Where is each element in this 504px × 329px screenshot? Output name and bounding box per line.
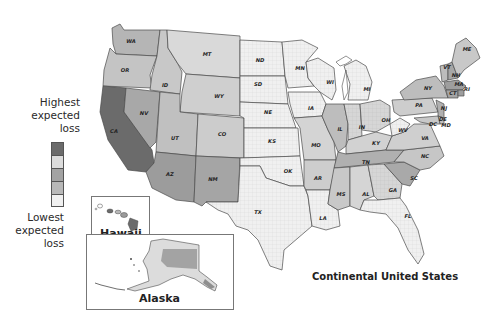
state-MI <box>344 60 372 100</box>
state-label-or: OR <box>121 67 129 73</box>
state-label-mn: MN <box>295 65 305 71</box>
state-label-az: AZ <box>165 171 174 177</box>
state-label-ks: KS <box>268 138 276 144</box>
state-label-nv: NV <box>140 110 149 116</box>
state-label-la: LA <box>319 215 326 221</box>
state-IA <box>288 92 326 118</box>
state-label-il: IL <box>337 126 342 132</box>
state-NE <box>240 102 296 128</box>
state-label-ma: MA <box>454 81 463 87</box>
state-label-sd: SD <box>254 81 263 87</box>
state-label-ga: GA <box>389 187 397 193</box>
state-WA <box>112 24 160 56</box>
state-label-pa: PA <box>415 102 422 108</box>
state-label-va: VA <box>421 135 429 141</box>
state-label-ar: AR <box>313 175 322 181</box>
state-label-nj: NJ <box>441 105 447 112</box>
state-label-oh: OH <box>382 117 391 123</box>
state-label-tn: TN <box>362 159 371 165</box>
state-label-ok: OK <box>284 168 293 174</box>
state-label-id: ID <box>162 82 169 88</box>
state-label-ri: RI <box>464 86 470 92</box>
state-label-ms: MS <box>337 191 346 197</box>
state-label-in: IN <box>359 124 366 130</box>
alaska-inset: Alaska <box>86 234 234 310</box>
state-label-ca: CA <box>110 128 118 134</box>
state-label-wi: WI <box>326 79 334 85</box>
state-FL <box>360 198 424 264</box>
state-label-me: ME <box>463 46 472 52</box>
state-label-mi: MI <box>363 86 370 92</box>
alaska-label: Alaska <box>139 292 180 305</box>
state-label-wv: WV <box>398 127 409 133</box>
continental-us-caption: Continental United States <box>312 271 458 282</box>
state-label-dc: DC <box>429 121 437 127</box>
state-label-tx: TX <box>254 209 263 215</box>
state-label-md: MD <box>441 122 451 128</box>
state-label-mt: MT <box>203 51 212 57</box>
state-WY <box>180 74 240 116</box>
state-label-co: CO <box>218 131 227 137</box>
expected-loss-map: Highest expected loss Lowest expected lo… <box>0 0 504 329</box>
state-SD <box>240 76 288 104</box>
state-label-ct: CT <box>449 90 457 96</box>
state-label-nh: NH <box>452 72 461 78</box>
state-label-nm: NM <box>208 176 218 182</box>
state-label-fl: FL <box>405 213 412 219</box>
state-label-ky: KY <box>372 140 381 146</box>
state-label-wy: WY <box>214 93 225 99</box>
state-label-wa: WA <box>126 38 136 44</box>
state-label-ny: NY <box>424 85 433 91</box>
state-label-mo: MO <box>311 142 321 148</box>
state-label-nd: ND <box>256 57 265 63</box>
state-label-ut: UT <box>171 135 179 141</box>
state-label-vt: VT <box>443 64 451 70</box>
state-label-ne: NE <box>264 109 272 115</box>
state-label-nc: NC <box>421 153 429 159</box>
state-label-ia: IA <box>308 105 314 111</box>
state-label-al: AL <box>361 191 369 197</box>
state-label-sc: SC <box>410 175 418 181</box>
